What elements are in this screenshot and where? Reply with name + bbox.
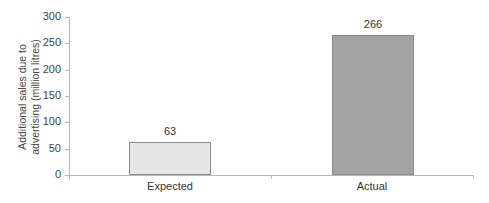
y-tick-label: 50 (31, 142, 61, 154)
y-tick (65, 96, 69, 97)
y-tick-label: 150 (31, 89, 61, 101)
y-tick (65, 122, 69, 123)
y-axis-title-line-1: Additional sales due to (16, 17, 29, 177)
data-label: 63 (129, 125, 211, 137)
x-tick (473, 175, 474, 179)
y-tick (65, 43, 69, 44)
y-tick (65, 70, 69, 71)
y-axis (69, 17, 70, 175)
x-category-label: Actual (312, 180, 432, 192)
y-tick (65, 149, 69, 150)
x-category-label: Expected (110, 180, 230, 192)
y-tick (65, 17, 69, 18)
y-tick-label: 250 (31, 36, 61, 48)
data-label: 266 (332, 18, 414, 30)
y-tick-label: 300 (31, 10, 61, 22)
bar-chart: Additional sales due to advertising (mil… (0, 0, 489, 203)
y-tick-label: 200 (31, 63, 61, 75)
y-tick-label: 0 (31, 168, 61, 180)
x-tick (69, 175, 70, 179)
bar-expected (129, 142, 211, 175)
y-tick-label: 100 (31, 115, 61, 127)
bar-actual (332, 35, 414, 175)
x-tick (271, 175, 272, 179)
